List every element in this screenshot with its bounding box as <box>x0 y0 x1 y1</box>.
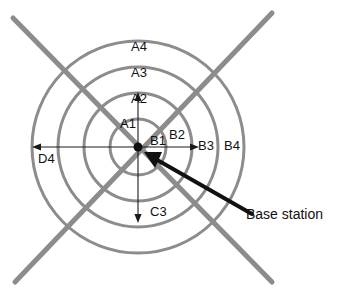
label-c3: C3 <box>150 205 167 218</box>
arrow-down-head <box>134 214 141 223</box>
label-a2: A2 <box>131 92 147 105</box>
center-dot <box>134 143 143 152</box>
label-d4: D4 <box>38 152 55 165</box>
label-b1: B1 <box>150 134 166 147</box>
radial-arrows <box>32 92 199 223</box>
label-base-station: Base station <box>246 207 323 221</box>
label-b4: B4 <box>224 139 240 152</box>
label-b3: B3 <box>198 139 214 152</box>
diagram-graphics <box>0 0 337 297</box>
label-b2: B2 <box>169 128 185 141</box>
figure-canvas: A4 A3 A2 A1 B1 B2 B3 B4 C3 D4 Base stati… <box>0 0 337 297</box>
label-a4: A4 <box>131 40 147 53</box>
label-a3: A3 <box>131 66 147 79</box>
label-a1: A1 <box>120 117 136 130</box>
